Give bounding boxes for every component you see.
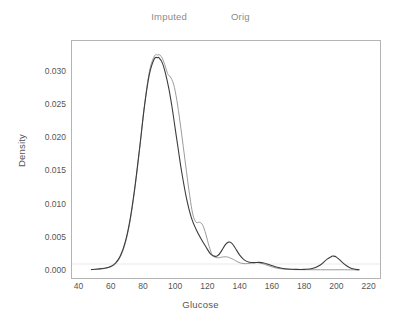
plot-frame — [72, 41, 381, 279]
plot-area — [0, 0, 401, 324]
series-layer — [91, 55, 359, 270]
series-line-orig — [91, 55, 359, 270]
density-plot-figure: Imputed Orig 0.0000.0050.0100.0150.0200.… — [0, 0, 401, 324]
series-line-imputed — [91, 57, 359, 269]
